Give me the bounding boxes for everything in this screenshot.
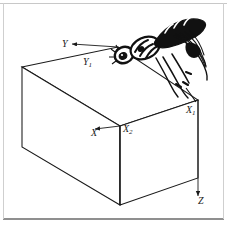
- axis-label-x2: X2: [123, 124, 133, 134]
- axis-label-y1-subscript: 1: [89, 61, 93, 69]
- axis-label-y1-base: Y: [83, 56, 89, 67]
- y-axis-line: [72, 44, 118, 47]
- axis-label-x1-subscript: 1: [192, 109, 196, 117]
- axis-label-y1: Y1: [83, 57, 92, 67]
- axis-label-x1: X1: [186, 105, 196, 115]
- insect-wing-base: [185, 43, 201, 59]
- figure-root: Y Y1 X X2 X1 Z: [0, 0, 227, 227]
- axis-label-y: Y: [62, 39, 68, 49]
- axis-label-x: X: [91, 128, 97, 138]
- axis-label-z: Z: [198, 196, 204, 206]
- insect-leg-3: [172, 54, 189, 83]
- axis-label-x2-subscript: 2: [129, 128, 133, 136]
- insect-eye-highlight: [121, 54, 123, 56]
